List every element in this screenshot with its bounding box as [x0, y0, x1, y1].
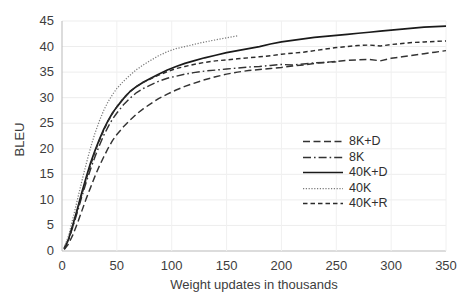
legend-line-swatch-40kplusr: [303, 203, 343, 204]
x-tick-300: 300: [371, 258, 411, 273]
series-line-40k: [64, 36, 237, 248]
x-tick-200: 200: [261, 258, 301, 273]
chart-legend: 8K+D8K40K+D40K40K+R: [303, 134, 403, 212]
x-tick-250: 250: [316, 258, 356, 273]
x-tick-50: 50: [97, 258, 137, 273]
legend-line-swatch-8k: [303, 157, 343, 158]
legend-line-swatch-8kplusd: [303, 141, 343, 142]
bleu-training-curve-chart: 051015202530354045 050100150200250300350…: [0, 0, 476, 307]
legend-label: 8K: [349, 150, 364, 166]
x-tick-350: 350: [426, 258, 466, 273]
legend-item-8kplusd: 8K+D: [303, 134, 403, 150]
legend-item-40kplusd: 40K+D: [303, 165, 403, 181]
legend-item-8k: 8K: [303, 150, 403, 166]
y-axis-title: BLEU: [12, 110, 27, 170]
y-tick-40: 40: [20, 39, 54, 54]
legend-line-swatch-40kplusd: [303, 172, 343, 173]
legend-label: 8K+D: [349, 134, 381, 150]
legend-label: 40K+D: [349, 165, 388, 181]
x-tick-100: 100: [152, 258, 192, 273]
x-tick-0: 0: [42, 258, 82, 273]
series-line-8k: [64, 62, 336, 249]
legend-label: 40K: [349, 181, 371, 197]
legend-line-swatch-40k: [303, 188, 343, 189]
x-tick-150: 150: [207, 258, 247, 273]
x-axis-title: Weight updates in thousands: [62, 277, 446, 292]
y-tick-5: 5: [20, 217, 54, 232]
y-tick-35: 35: [20, 64, 54, 79]
y-tick-30: 30: [20, 90, 54, 105]
legend-item-40k: 40K: [303, 181, 403, 197]
legend-label: 40K+R: [349, 196, 388, 212]
legend-item-40kplusr: 40K+R: [303, 196, 403, 212]
y-tick-10: 10: [20, 192, 54, 207]
y-tick-45: 45: [20, 13, 54, 28]
y-tick-0: 0: [20, 243, 54, 258]
